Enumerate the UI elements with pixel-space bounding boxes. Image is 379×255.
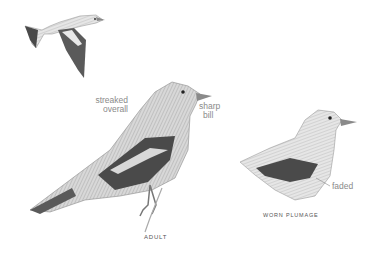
label-line: bill xyxy=(199,111,220,120)
adult-caption: ADULT xyxy=(144,234,167,240)
sharp-bill-label: sharp bill xyxy=(199,102,220,120)
streaked-overall-label: streaked overall xyxy=(82,96,128,114)
worn-plumage-caption: WORN PLUMAGE xyxy=(263,212,318,218)
faded-label: faded xyxy=(332,182,353,191)
label-line: overall xyxy=(82,105,128,114)
field-guide-plate: streaked overall sharp bill faded ADULT … xyxy=(0,0,379,255)
flying-bird xyxy=(25,15,105,78)
bird-illustrations xyxy=(0,0,379,255)
